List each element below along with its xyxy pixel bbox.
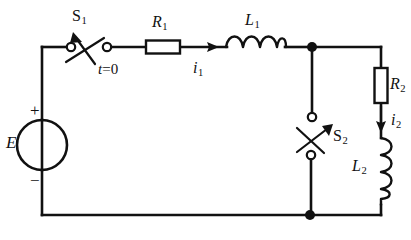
label-inductor-l1: L1 (245, 12, 260, 31)
circuit-schematic-canvas (0, 0, 411, 240)
label-source-polarity-plus: + (30, 102, 40, 119)
label-current-i2-subscript: 2 (395, 119, 401, 130)
label-current-i1: i1 (193, 60, 203, 79)
junction-dot-top (307, 42, 317, 52)
inductor-l2-coil (381, 138, 392, 205)
switch-s2-arrow-head (322, 124, 333, 136)
label-source-polarity-minus: − (30, 172, 40, 189)
label-inductor-l2: L2 (352, 158, 367, 177)
switch-s1-arrow-head (70, 32, 82, 43)
circuit-diagram: S1 t=0 R1 i1 L1 S2 R2 i2 L2 E + − (0, 0, 411, 240)
label-inductor-l2-letter: L (352, 157, 361, 174)
resistor-r2-body (375, 68, 388, 103)
switch-s2-terminal-top (308, 113, 316, 121)
inductor-l1-coil (226, 37, 286, 48)
label-switch-s2-letter: S (333, 127, 342, 144)
label-resistor-r2-subscript: 2 (400, 83, 406, 94)
label-inductor-l1-subscript: 1 (254, 19, 260, 30)
label-switch-time: t=0 (98, 62, 118, 77)
label-source-e: E (6, 134, 16, 151)
label-resistor-r2: R2 (390, 76, 406, 95)
label-switch-s2: S2 (333, 128, 348, 147)
resistor-r1-body (146, 41, 180, 54)
label-switch-s1: S1 (72, 8, 87, 27)
label-resistor-r1-letter: R (152, 13, 162, 30)
label-switch-s1-subscript: 1 (81, 15, 87, 26)
switch-s1-terminal-right (103, 43, 111, 51)
label-switch-time-value: =0 (102, 61, 118, 77)
label-switch-s2-subscript: 2 (342, 135, 348, 146)
junction-dot-bottom (305, 210, 315, 220)
label-resistor-r1-subscript: 1 (162, 21, 168, 32)
switch-s2-terminal-bottom (307, 151, 315, 159)
label-current-i2: i2 (391, 112, 401, 131)
switch-s1-terminal-left (67, 43, 75, 51)
label-inductor-l2-subscript: 2 (361, 165, 367, 176)
label-switch-s1-letter: S (72, 7, 81, 24)
label-current-i1-subscript: 1 (197, 67, 203, 78)
label-inductor-l1-letter: L (245, 11, 254, 28)
label-resistor-r2-letter: R (390, 75, 400, 92)
label-resistor-r1: R1 (152, 14, 168, 33)
